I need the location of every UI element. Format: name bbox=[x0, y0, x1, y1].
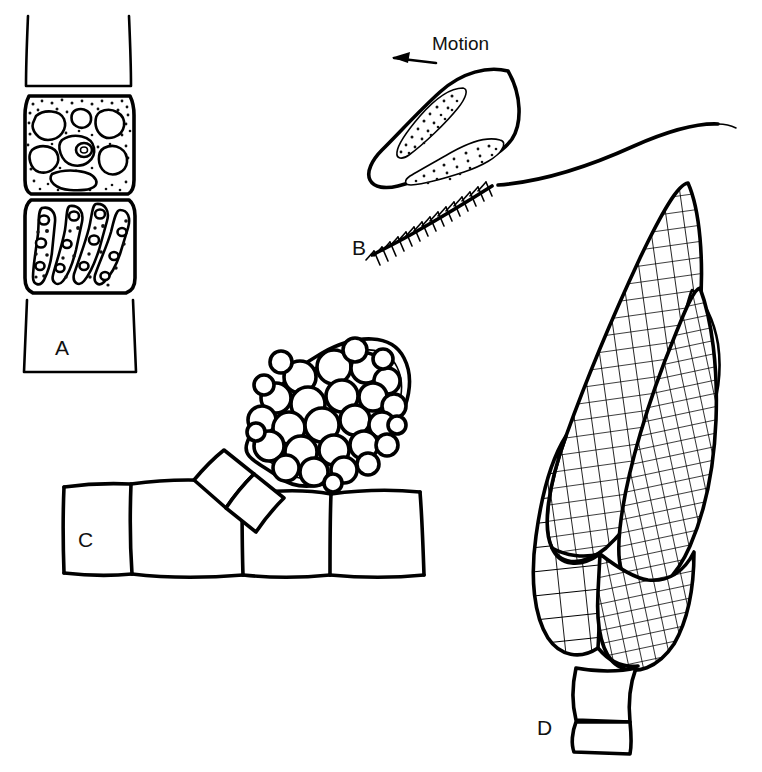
panel-d-label: D bbox=[537, 716, 552, 739]
figure-canvas: A Motion bbox=[0, 0, 762, 772]
panel-a-label: A bbox=[55, 336, 69, 359]
panel-b-label: B bbox=[352, 236, 366, 259]
panel-d-stalk-cell-upper bbox=[573, 668, 636, 722]
panel-d-stalk-cell-lower bbox=[572, 722, 631, 754]
motion-label: Motion bbox=[432, 33, 489, 54]
panel-c-label: C bbox=[78, 528, 93, 551]
figure-plate: A Motion bbox=[0, 0, 762, 772]
panel-d-stalk bbox=[572, 668, 636, 754]
